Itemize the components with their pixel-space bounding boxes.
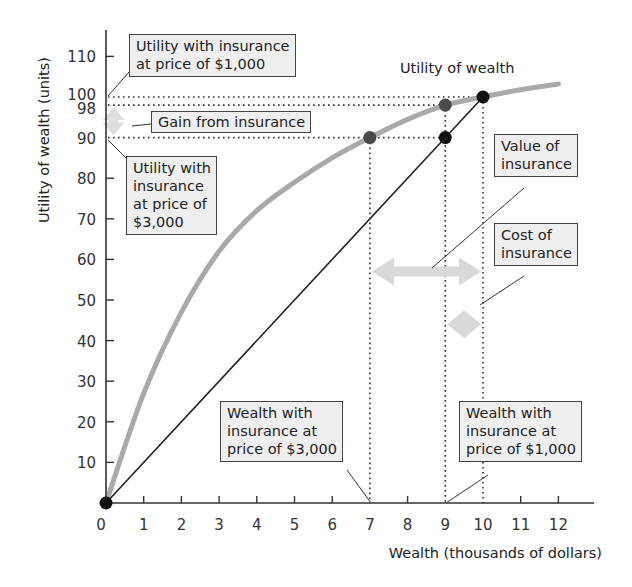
x-tick-label-0: 0 (96, 516, 106, 534)
x-tick-label-4: 4 (252, 516, 262, 534)
annotation-utility-price-1000: Utility with insurance at price of $1,00… (129, 34, 296, 77)
leader-line-2 (108, 140, 126, 158)
annotation-utility-price-3000: Utility with insurance at price of $3,00… (126, 156, 217, 235)
leader-line-1 (132, 124, 151, 126)
cost-of-insurance-arrow-icon (447, 310, 481, 338)
x-tick-label-8: 8 (403, 516, 413, 534)
y-tick-label-70: 70 (77, 211, 96, 229)
x-tick-label-11: 11 (511, 516, 530, 534)
x-tick-label-3: 3 (214, 516, 224, 534)
annotation-cost-of-insurance: Cost of insurance (494, 223, 578, 266)
y-axis-title: Utility of wealth (units) (36, 57, 52, 223)
x-tick-label-7: 7 (365, 516, 375, 534)
annotation-gain-from-insurance: Gain from insurance (151, 111, 311, 133)
x-tick-label-9: 9 (441, 516, 451, 534)
annotation-wealth-price-3000: Wealth with insurance at price of $3,000 (220, 401, 343, 462)
y-tick-label-100: 100 (67, 86, 96, 104)
data-point-9-98 (439, 99, 452, 112)
curve-label-utility-of-wealth: Utility of wealth (400, 60, 514, 76)
leader-line-5 (347, 470, 371, 503)
data-point-10-100 (477, 91, 490, 104)
annotation-wealth-price-1000: Wealth with insurance at price of $1,000 (459, 401, 582, 462)
data-point-0-0 (100, 497, 113, 510)
y-tick-label-10: 10 (77, 454, 96, 472)
chart-canvas: 0123456789101112102030405060708090981001… (0, 0, 632, 587)
y-tick-label-50: 50 (77, 292, 96, 310)
leader-line-0 (108, 72, 129, 96)
axes: 0123456789101112102030405060708090981001… (36, 30, 602, 561)
value-of-insurance-arrow-icon (372, 258, 481, 286)
y-tick-label-80: 80 (77, 170, 96, 188)
x-tick-label-2: 2 (177, 516, 187, 534)
y-tick-label-60: 60 (77, 251, 96, 269)
x-tick-label-1: 1 (139, 516, 149, 534)
annotation-value-of-insurance: Value of insurance (494, 134, 578, 177)
leader-line-6 (446, 475, 488, 503)
y-tick-label-90: 90 (77, 130, 96, 148)
y-tick-label-110: 110 (67, 48, 96, 66)
y-tick-label-40: 40 (77, 333, 96, 351)
x-tick-label-12: 12 (549, 516, 568, 534)
data-point-7-90 (363, 131, 376, 144)
data-point-9-90 (439, 131, 452, 144)
y-tick-label-30: 30 (77, 373, 96, 391)
x-axis-title: Wealth (thousands of dollars) (389, 545, 602, 561)
y-tick-label-20: 20 (77, 414, 96, 432)
leader-line-4 (480, 276, 524, 305)
x-tick-label-10: 10 (473, 516, 492, 534)
x-tick-label-6: 6 (327, 516, 337, 534)
x-tick-label-5: 5 (290, 516, 300, 534)
